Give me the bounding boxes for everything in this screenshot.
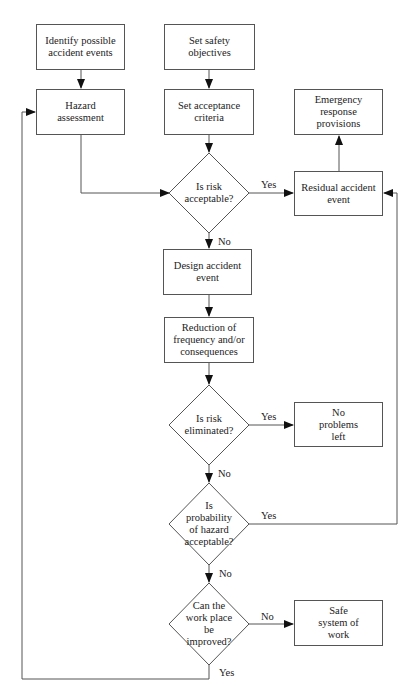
edge-label-risk-eliminated-no: No — [218, 468, 231, 480]
edge-label-probability-no: No — [219, 568, 232, 580]
diamond-label-probability: Is probability of hazard acceptable? — [181, 499, 237, 549]
box-label: No problems left — [315, 407, 362, 443]
box-design-accident-event: Design accident event — [163, 249, 252, 295]
edge-label-risk-eliminated-yes: Yes — [261, 411, 276, 423]
box-safe-system-of-work: Safe system of work — [294, 600, 383, 646]
box-label: Emergency response provisions — [313, 94, 364, 130]
edge-label-risk-acceptable-no: No — [218, 236, 231, 248]
edge-label-risk-acceptable-yes: Yes — [261, 179, 276, 191]
edge-label-improve-no: No — [261, 611, 274, 623]
box-residual-accident-event: Residual accident event — [294, 171, 383, 216]
edge-label-improve-yes: Yes — [219, 667, 234, 679]
box-set-safety-objectives: Set safety objectives — [164, 24, 255, 70]
box-label: Residual accident event — [297, 182, 380, 206]
box-no-problems-left: No problems left — [294, 402, 383, 447]
box-label: Set safety objectives — [185, 35, 234, 59]
diamond-label-risk-acceptable: Is risk acceptable? — [179, 178, 239, 208]
box-reduction-frequency-consequences: Reduction of frequency and/or consequenc… — [164, 317, 254, 363]
box-emergency-response-provisions: Emergency response provisions — [294, 89, 383, 135]
box-label: Hazard assessment — [55, 100, 106, 124]
diamond-label-risk-eliminated: Is risk eliminated? — [179, 410, 239, 440]
box-hazard-assessment: Hazard assessment — [36, 89, 125, 135]
box-set-acceptance-criteria: Set acceptance criteria — [164, 89, 254, 135]
diamond-label-improve: Can the work place be improved? — [183, 599, 235, 649]
edge-label-probability-yes: Yes — [261, 510, 276, 522]
box-label: Design accident event — [166, 260, 249, 284]
box-label: Reduction of frequency and/or consequenc… — [167, 322, 251, 358]
box-label: Set acceptance criteria — [167, 100, 251, 124]
box-label: Safe system of work — [315, 605, 362, 641]
box-label: Identify possible accident events — [39, 35, 122, 59]
box-identify-accident-events: Identify possible accident events — [36, 24, 125, 70]
